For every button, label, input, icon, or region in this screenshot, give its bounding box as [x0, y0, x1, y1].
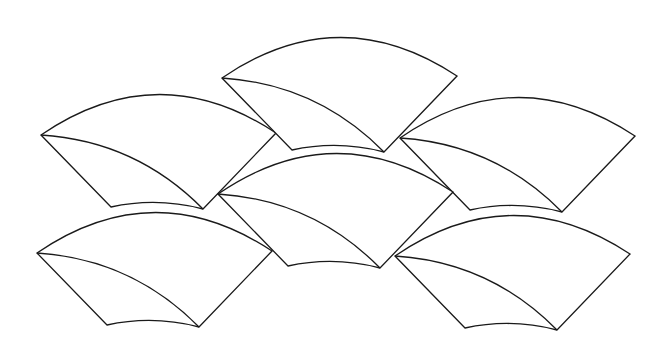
fan-outline [37, 212, 272, 327]
fan-pattern-diagram [0, 0, 669, 344]
fan-lower-right [395, 215, 630, 330]
fan-lower-left [37, 212, 272, 327]
fan-outline [395, 215, 630, 330]
